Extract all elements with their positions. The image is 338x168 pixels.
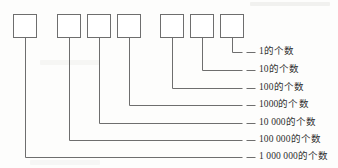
label-ones: 1的个数: [259, 46, 294, 57]
labels-layer: 1的个数10的个数100的个数1000的个数10 000的个数100 000的个…: [0, 0, 338, 168]
label-millions: 1 000 000的个数: [259, 151, 328, 162]
label-ten-thousands: 10 000的个数: [259, 117, 316, 128]
label-hundred-thousands: 100 000的个数: [259, 134, 321, 145]
label-tens: 10的个数: [259, 64, 299, 75]
label-thousands: 1000的个数: [259, 99, 309, 110]
label-hundreds: 100的个数: [259, 82, 304, 93]
place-value-diagram: 1的个数10的个数100的个数1000的个数10 000的个数100 000的个…: [0, 0, 338, 168]
